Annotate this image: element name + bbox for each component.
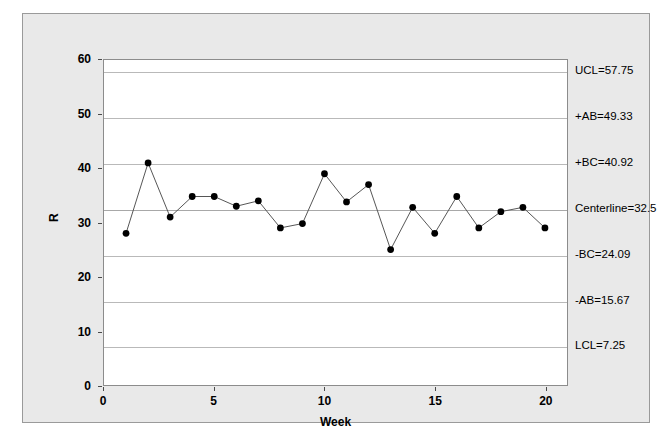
- series-markers: [123, 160, 549, 253]
- annotation-centerline: Centerline=32.5: [575, 203, 657, 215]
- data-point: [233, 203, 240, 210]
- data-point: [343, 199, 350, 206]
- x-axis-tick-mark: [546, 387, 547, 391]
- series-line: [126, 163, 545, 250]
- data-point: [189, 193, 196, 200]
- x-axis-tick-mark: [214, 387, 215, 391]
- y-axis-tick-mark: [98, 386, 102, 387]
- y-axis-tick-label: 0: [57, 380, 91, 392]
- x-axis-tick-mark: [103, 387, 104, 391]
- y-axis-tick-label: 30: [57, 217, 91, 229]
- data-point: [453, 193, 460, 200]
- y-axis-tick-label: 60: [57, 53, 91, 65]
- y-axis-tick-mark: [98, 223, 102, 224]
- x-axis-tick-label: 10: [304, 395, 344, 407]
- y-axis-tick-label: 50: [57, 108, 91, 120]
- x-axis-tick-label: 15: [415, 395, 455, 407]
- x-axis-title: Week: [103, 415, 568, 429]
- data-point: [387, 246, 394, 253]
- data-point: [123, 230, 130, 237]
- data-point: [211, 193, 218, 200]
- y-axis-tick-mark: [98, 114, 102, 115]
- x-axis-tick-label: 0: [83, 395, 123, 407]
- data-point: [475, 225, 482, 232]
- data-point: [431, 230, 438, 237]
- data-point: [542, 225, 549, 232]
- data-point: [167, 214, 174, 221]
- x-axis-tick-mark: [435, 387, 436, 391]
- x-axis-tick-label: 20: [526, 395, 566, 407]
- data-series-plot: [104, 60, 567, 385]
- annotation-minus_BC: -BC=24.09: [575, 249, 630, 261]
- data-point: [145, 160, 152, 167]
- data-point: [277, 225, 284, 232]
- y-axis-tick-mark: [98, 332, 102, 333]
- annotation-plus_AB: +AB=49.33: [575, 111, 633, 123]
- y-axis-tick-mark: [98, 59, 102, 60]
- annotation-plus_BC: +BC=40.92: [575, 157, 633, 169]
- y-axis-tick-label: 20: [57, 271, 91, 283]
- annotation-UCL: UCL=57.75: [575, 66, 634, 78]
- x-axis-tick-mark: [324, 387, 325, 391]
- y-axis-tick-label: 10: [57, 326, 91, 338]
- data-point: [299, 220, 306, 227]
- data-point: [520, 204, 527, 211]
- data-point: [409, 204, 416, 211]
- plot-area: [103, 59, 568, 386]
- y-axis-tick-mark: [98, 277, 102, 278]
- y-axis-tick-label: 40: [57, 162, 91, 174]
- x-axis-tick-label: 5: [194, 395, 234, 407]
- control-chart-panel: R Week 0102030405060 05101520 UCL=57.75+…: [22, 13, 650, 423]
- data-point: [365, 181, 372, 188]
- y-axis-tick-mark: [98, 168, 102, 169]
- data-point: [497, 208, 504, 215]
- data-point: [321, 170, 328, 177]
- annotation-minus_AB: -AB=15.67: [575, 295, 630, 307]
- annotation-LCL: LCL=7.25: [575, 341, 625, 353]
- data-point: [255, 197, 262, 204]
